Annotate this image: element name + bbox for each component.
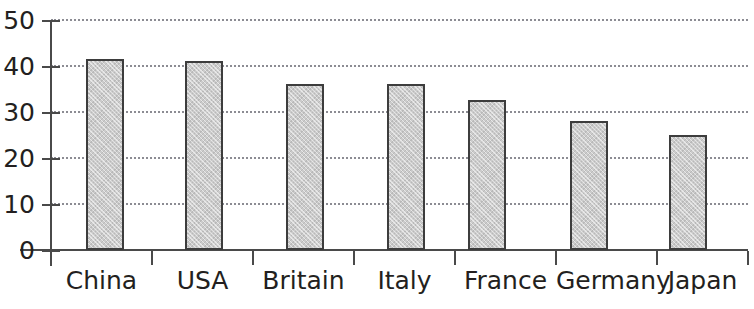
x-axis-label-usa: USA bbox=[152, 268, 253, 293]
x-tick-mark-4 bbox=[454, 251, 456, 265]
x-tick-mark-2 bbox=[252, 251, 254, 265]
x-axis-label-italy: Italy bbox=[354, 268, 455, 293]
x-tick-mark-7 bbox=[747, 251, 749, 265]
gridline-40 bbox=[51, 65, 748, 67]
y-axis-label-0: 0 bbox=[0, 238, 35, 263]
x-axis-label-china: China bbox=[51, 268, 152, 293]
bar-france bbox=[468, 100, 506, 250]
y-tick-mark-10 bbox=[42, 204, 60, 206]
x-tick-mark-3 bbox=[353, 251, 355, 265]
y-tick-mark-50 bbox=[42, 20, 60, 22]
y-tick-mark-30 bbox=[42, 112, 60, 114]
bar-chart: 50 40 30 20 10 0 China USA Britain Italy… bbox=[0, 0, 754, 309]
x-tick-mark-1 bbox=[151, 251, 153, 265]
bar-britain bbox=[286, 84, 324, 250]
bar-italy bbox=[387, 84, 425, 250]
y-axis-label-30: 30 bbox=[0, 100, 35, 125]
y-axis-line bbox=[50, 20, 52, 266]
x-axis-label-france: France bbox=[455, 268, 556, 293]
x-axis-line bbox=[20, 249, 748, 251]
y-axis-label-10: 10 bbox=[0, 192, 35, 217]
y-axis-label-40: 40 bbox=[0, 54, 35, 79]
x-tick-mark-0 bbox=[50, 251, 52, 265]
y-axis-label-50: 50 bbox=[0, 8, 35, 33]
x-tick-mark-5 bbox=[555, 251, 557, 265]
y-axis-label-20: 20 bbox=[0, 146, 35, 171]
bar-usa bbox=[185, 61, 223, 250]
x-axis-label-japan: Japan bbox=[657, 268, 748, 293]
y-tick-mark-20 bbox=[42, 158, 60, 160]
bar-germany bbox=[570, 121, 608, 250]
bar-japan bbox=[669, 135, 707, 250]
x-axis-label-germany: Germany bbox=[556, 268, 657, 293]
bar-china bbox=[86, 59, 124, 250]
x-axis-label-britain: Britain bbox=[253, 268, 354, 293]
y-tick-mark-40 bbox=[42, 66, 60, 68]
gridline-50 bbox=[51, 19, 748, 21]
x-tick-mark-6 bbox=[656, 251, 658, 265]
